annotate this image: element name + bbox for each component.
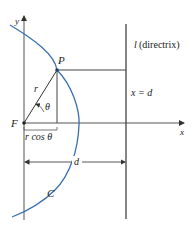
directrix-l-label: l bbox=[134, 39, 137, 50]
radius-label: r bbox=[34, 83, 38, 94]
conic-curve bbox=[10, 25, 79, 217]
point-p bbox=[55, 68, 59, 72]
radius-line bbox=[24, 70, 57, 123]
point-label: P bbox=[57, 54, 65, 66]
focus-label: F bbox=[10, 117, 18, 129]
rcos-bracket bbox=[24, 127, 57, 130]
conic-diagram: y x P F r θ r cos θ l (directrix) x = d … bbox=[0, 0, 196, 231]
curve-label: C bbox=[47, 187, 55, 199]
focus-point bbox=[22, 121, 26, 125]
angle-arc bbox=[36, 104, 44, 112]
rcos-label: r cos θ bbox=[25, 131, 52, 142]
angle-label: θ bbox=[45, 101, 50, 112]
directrix-equation: x = d bbox=[130, 87, 153, 98]
y-axis-label: y bbox=[14, 16, 19, 26]
directrix-text: (directrix) bbox=[139, 39, 180, 51]
x-axis-label: x bbox=[179, 127, 184, 137]
